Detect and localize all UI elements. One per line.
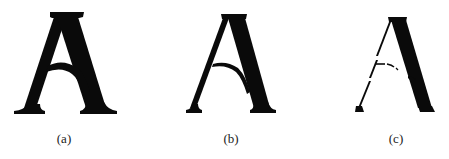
letter-a-thinned-glyph xyxy=(150,0,300,125)
panel-b: (b) xyxy=(150,0,300,159)
caption-a: (a) xyxy=(44,131,84,147)
panel-c: (c) xyxy=(300,0,449,159)
letter-a-bold-glyph xyxy=(0,0,150,125)
panel-a: (a) xyxy=(0,0,150,159)
caption-b: (b) xyxy=(211,131,251,147)
caption-c: (c) xyxy=(376,131,416,147)
letter-a-skeleton-glyph xyxy=(300,0,449,125)
